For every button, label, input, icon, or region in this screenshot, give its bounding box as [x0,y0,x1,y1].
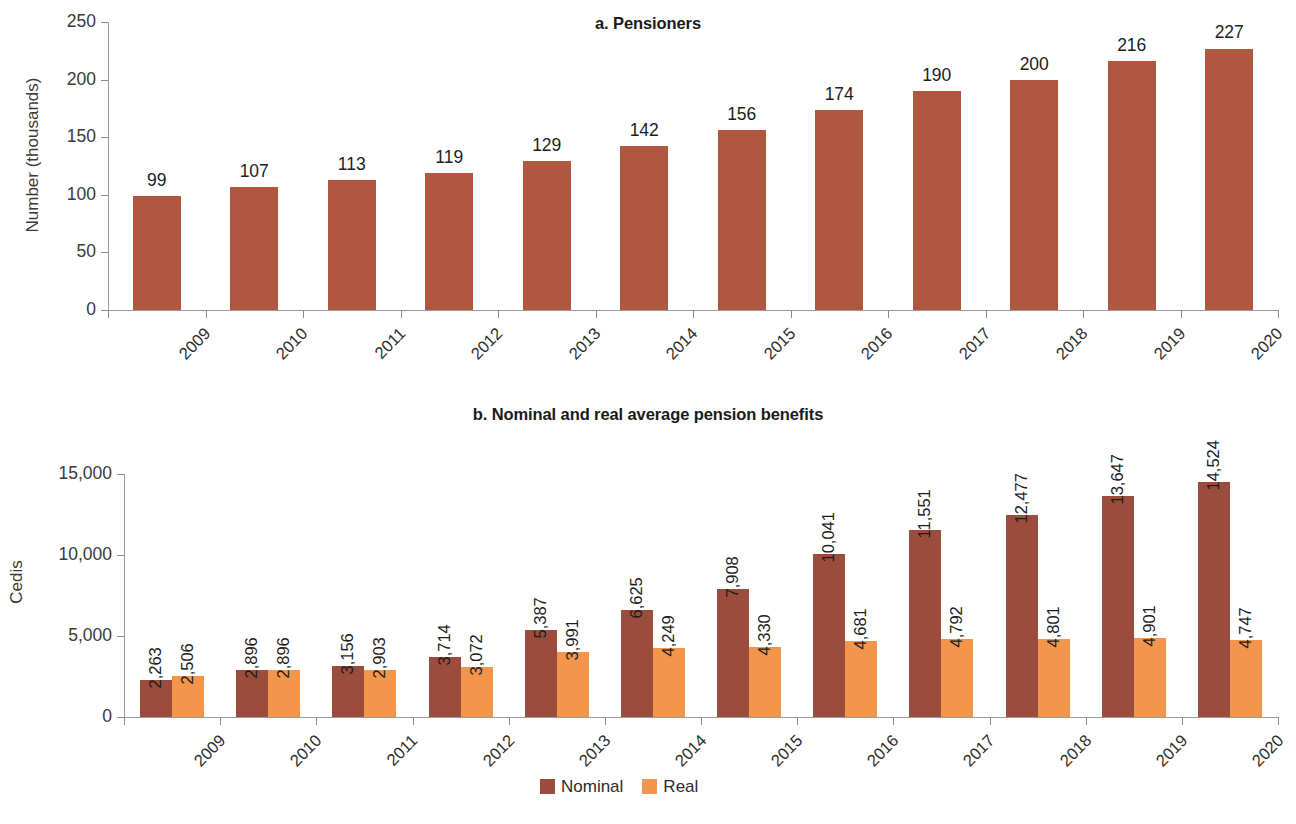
panel-b-x-tick-label: 2018 [1022,731,1095,804]
bar-value-label: 4,901 [1140,605,1157,646]
panel-a-y-tick-mark [101,22,108,23]
panel-b-x-tick-label: 2019 [1118,731,1191,804]
figure-root: a. Pensioners Number (thousands) 0501001… [0,0,1296,824]
bar-value-label: 107 [209,163,299,181]
panel-a-bars: 99107113119129142156174190200216227 [108,22,1278,310]
panel-b-x-tick-label: 2020 [1215,731,1288,804]
bar [1010,80,1058,310]
panel-b-y-tick-label: 5,000 [4,627,112,645]
panel-a-y-tick-label: 0 [4,301,96,319]
bar [525,630,557,717]
panel-b-x-tick-mark [1278,717,1279,725]
panel-b-y-tick-mark [117,636,124,637]
panel-a-y-tick-mark [101,137,108,138]
panel-a-x-tick-mark [1083,310,1084,318]
bar-value-label: 3,991 [563,620,580,661]
bar-value-label: 216 [1087,37,1177,55]
bar-value-label: 2,896 [243,637,260,678]
panel-a-x-tick-mark [693,310,694,318]
panel-a-x-tick-mark [401,310,402,318]
panel-b-x-tick-mark [220,717,221,725]
panel-a-y-tick-mark [101,252,108,253]
panel-b-title: b. Nominal and real average pension bene… [348,405,948,424]
bar [913,91,961,310]
panel-b-x-tick-mark [701,717,702,725]
bar [133,196,181,310]
panel-b-x-tick-mark [316,717,317,725]
panel-a-y-tick-label: 200 [4,71,96,89]
bar-value-label: 10,041 [820,512,837,562]
panel-b-x-tick-mark [893,717,894,725]
panel-b-x-tick-mark [1182,717,1183,725]
bar-value-label: 119 [404,149,494,167]
panel-a-x-tick-mark [498,310,499,318]
bar [941,639,973,717]
bar-value-label: 5,387 [531,597,548,638]
bar-value-label: 3,072 [467,634,484,675]
chart-panel-pensioners: a. Pensioners Number (thousands) 0501001… [0,0,1296,380]
bar-value-label: 113 [307,156,397,174]
bar-value-label: 4,801 [1044,606,1061,647]
panel-a-y-tick-label: 50 [4,243,96,261]
bar-value-label: 156 [697,106,787,124]
bar [1198,482,1230,717]
panel-a-y-tick-mark [101,310,108,311]
bar-value-label: 14,524 [1204,440,1221,490]
panel-b-x-tick-label: 2009 [157,731,230,804]
chart-panel-pension-benefits: b. Nominal and real average pension bene… [0,380,1296,824]
bar [328,180,376,310]
bar-value-label: 227 [1184,24,1274,42]
bar-value-label: 2,506 [179,644,196,685]
legend-item-real: Real [642,778,698,795]
panel-a-x-tick-mark [1181,310,1182,318]
bar [1006,515,1038,717]
panel-a-x-tick-mark [888,310,889,318]
panel-b-y-tick-label: 15,000 [4,465,112,483]
panel-a-x-tick-mark [303,310,304,318]
bar [230,187,278,310]
bar [813,554,845,717]
bar-value-label: 129 [502,137,592,155]
panel-a-y-tick-mark [101,80,108,81]
bar-value-label: 142 [599,122,689,140]
bar-value-label: 99 [112,172,202,190]
bar-value-label: 11,551 [916,489,933,538]
panel-b-x-tick-label: 2011 [349,731,422,804]
panel-b-y-tick-label: 0 [4,708,112,726]
panel-a-y-tick-label: 250 [4,13,96,31]
bar [1205,49,1253,311]
panel-b-x-tick-mark [605,717,606,725]
bar-value-label: 4,681 [852,608,869,649]
bar [1102,496,1134,717]
panel-b-x-tick-mark [990,717,991,725]
bar [1108,61,1156,310]
panel-b-y-tick-mark [117,717,124,718]
bar [718,130,766,310]
panel-a-y-tick-mark [101,195,108,196]
panel-b-x-tick-label: 2017 [926,731,999,804]
panel-b-x-tick-mark [124,717,125,725]
panel-b-y-tick-label: 10,000 [4,546,112,564]
legend-swatch-nominal [540,779,555,794]
panel-a-x-tick-mark [986,310,987,318]
bar-value-label: 4,249 [659,615,676,656]
panel-b-x-tick-mark [1086,717,1087,725]
panel-a-y-tick-label: 150 [4,128,96,146]
bar [523,161,571,310]
bar-value-label: 6,625 [627,577,644,618]
bar [845,641,877,717]
bar-value-label: 200 [989,56,1079,74]
bar-value-label: 3,156 [339,633,356,674]
bar-value-label: 2,896 [275,637,292,678]
panel-b-x-tick-label: 2016 [830,731,903,804]
panel-a-x-tick-mark [791,310,792,318]
bar [557,652,589,717]
panel-a-x-tick-mark [1278,310,1279,318]
bar-value-label: 174 [794,86,884,104]
panel-b-x-tick-label: 2010 [253,731,326,804]
bar-value-label: 13,647 [1108,454,1125,504]
panel-b-y-tick-mark [117,474,124,475]
bar-value-label: 4,792 [948,607,965,648]
bar [429,657,461,717]
bar [1134,638,1166,717]
